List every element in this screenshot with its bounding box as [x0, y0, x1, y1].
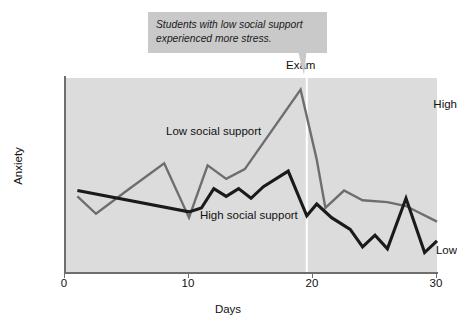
exam-annotation-label: Exam	[286, 59, 315, 71]
callout-box: Students with low social support experie…	[148, 12, 327, 53]
series-label-low-social-support: Low social support	[166, 125, 261, 137]
callout-line-1: Students with low social support	[156, 18, 319, 32]
anxiety-line-chart-figure: High Low 0 10 20 30 Anxiety Days Exam Lo…	[0, 0, 457, 331]
callout-line-2: experienced more stress.	[156, 32, 319, 46]
series-label-high-social-support: High social support	[200, 209, 298, 221]
